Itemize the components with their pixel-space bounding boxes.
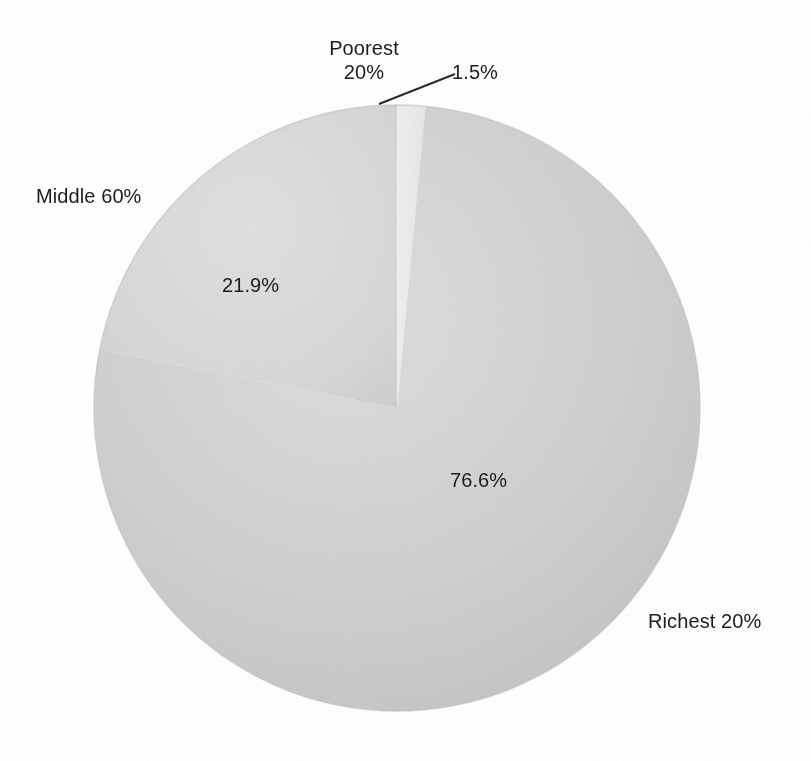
pie-chart-figure: Poorest 20% 1.5% Middle 60% 21.9% 76.6% … [0, 0, 811, 761]
pie-svg [0, 0, 811, 761]
slice-label-poorest-name: Poorest [284, 36, 444, 60]
slice-label-poorest-share: 20% [284, 60, 444, 84]
pie-chart-graphic [0, 0, 811, 761]
slice-value-poorest: 1.5% [452, 60, 498, 84]
slice-value-middle: 21.9% [222, 273, 279, 297]
slice-label-middle: Middle 60% [36, 184, 142, 208]
slice-label-richest: Richest 20% [648, 609, 761, 633]
slice-value-richest: 76.6% [450, 468, 507, 492]
